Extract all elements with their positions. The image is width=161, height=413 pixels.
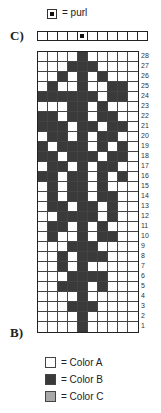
color-b-cell — [78, 232, 88, 242]
color-b-cell — [58, 132, 68, 142]
color-b-cell — [58, 122, 68, 132]
color-a-cell — [118, 192, 128, 202]
color-b-cell — [58, 142, 68, 152]
color-a-cell — [48, 212, 58, 222]
color-a-cell — [128, 52, 138, 62]
color-a-cell — [118, 132, 128, 142]
color-a-cell — [58, 62, 68, 72]
color-a-cell — [98, 292, 108, 302]
color-a-cell — [108, 262, 118, 272]
color-b-cell — [78, 142, 88, 152]
color-b-cell — [48, 172, 58, 182]
color-a-cell — [58, 52, 68, 62]
color-b-cell — [38, 112, 48, 122]
color-b-cell — [78, 162, 88, 172]
color-b-cell — [68, 212, 78, 222]
color-a-cell — [98, 122, 108, 132]
stitch-cell — [68, 32, 78, 40]
color-b-cell — [78, 112, 88, 122]
color-c-swatch-icon — [45, 391, 56, 402]
color-b-cell — [68, 302, 78, 312]
color-a-cell — [108, 102, 118, 112]
color-a-cell — [98, 312, 108, 322]
color-a-cell — [58, 82, 68, 92]
color-a-cell — [98, 262, 108, 272]
color-a-cell — [108, 292, 118, 302]
color-b-cell — [78, 222, 88, 232]
color-a-cell — [88, 162, 98, 172]
row-number: 27 — [141, 61, 149, 71]
color-a-cell — [38, 232, 48, 242]
color-b-cell — [58, 92, 68, 102]
color-a-cell — [118, 212, 128, 222]
color-a-cell — [118, 252, 128, 262]
color-b-cell — [98, 282, 108, 292]
color-a-cell — [88, 132, 98, 142]
color-a-cell — [48, 292, 58, 302]
color-b-cell — [98, 162, 108, 172]
color-a-cell — [88, 172, 98, 182]
color-b-cell — [78, 132, 88, 142]
color-a-cell — [48, 312, 58, 322]
color-b-cell — [78, 52, 88, 62]
color-b-cell — [108, 82, 118, 92]
purl-stitch-cell — [78, 32, 88, 40]
color-a-cell — [98, 242, 108, 252]
color-a-cell — [98, 152, 108, 162]
color-a-cell — [88, 322, 98, 332]
color-a-cell — [128, 112, 138, 122]
color-a-cell — [128, 132, 138, 142]
color-a-cell — [48, 72, 58, 82]
color-a-swatch-icon — [45, 357, 56, 368]
color-a-cell — [38, 272, 48, 282]
color-a-cell — [58, 302, 68, 312]
color-a-cell — [98, 52, 108, 62]
row-number: 2 — [141, 311, 149, 321]
row-number: 14 — [141, 191, 149, 201]
color-b-cell — [78, 172, 88, 182]
color-b-cell — [108, 232, 118, 242]
color-b-cell — [98, 192, 108, 202]
color-a-cell — [118, 72, 128, 82]
color-b-cell — [78, 242, 88, 252]
color-a-cell — [38, 252, 48, 262]
color-b-cell — [118, 92, 128, 102]
color-a-cell — [88, 112, 98, 122]
color-b-cell — [58, 222, 68, 232]
color-a-cell — [48, 302, 58, 312]
color-a-cell — [88, 262, 98, 272]
color-b-cell — [98, 172, 108, 182]
row-number: 28 — [141, 51, 149, 61]
color-a-cell — [88, 192, 98, 202]
color-b-cell — [98, 252, 108, 262]
color-a-cell — [48, 272, 58, 282]
color-a-cell — [128, 202, 138, 212]
row-number: 21 — [141, 121, 149, 131]
color-a-cell — [128, 252, 138, 262]
row-number: 11 — [141, 221, 149, 231]
color-a-cell — [58, 102, 68, 112]
row-number: 1 — [141, 321, 149, 331]
color-a-cell — [38, 52, 48, 62]
color-a-cell — [98, 82, 108, 92]
color-a-cell — [38, 102, 48, 112]
color-a-cell — [108, 222, 118, 232]
color-a-cell — [118, 312, 128, 322]
color-b-cell — [108, 112, 118, 122]
color-b-cell — [88, 272, 98, 282]
row-number: 20 — [141, 131, 149, 141]
color-b-cell — [98, 72, 108, 82]
color-b-cell — [68, 92, 78, 102]
color-a-cell — [108, 312, 118, 322]
color-a-cell — [108, 282, 118, 292]
color-b-cell — [118, 122, 128, 132]
stitch-cell — [48, 32, 58, 40]
color-b-cell — [68, 192, 78, 202]
color-b-cell — [48, 82, 58, 92]
color-a-cell — [58, 182, 68, 192]
color-b-cell — [78, 282, 88, 292]
color-b-cell — [58, 212, 68, 222]
color-a-cell — [118, 52, 128, 62]
color-a-cell — [58, 232, 68, 242]
color-a-cell — [38, 182, 48, 192]
